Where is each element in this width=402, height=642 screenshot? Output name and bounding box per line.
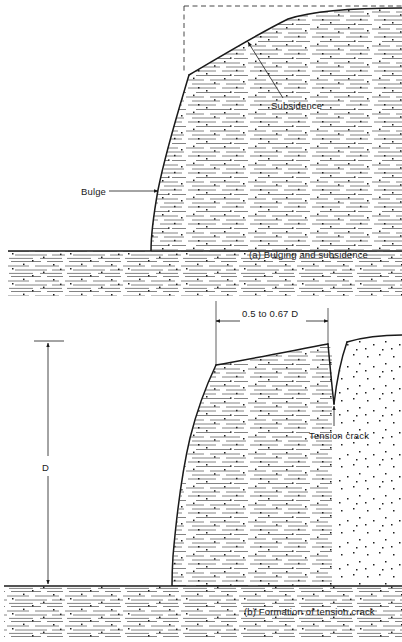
figure-root: Subsidence Bulge Tension crack 0.5 to 0.… (0, 0, 402, 642)
depth-dimension-label: D (42, 462, 49, 473)
tension-crack-label: Tension crack (309, 430, 369, 441)
wedge-width-dimension-label: 0.5 to 0.67 D (242, 308, 298, 319)
subsidence-label: Subsidence (271, 100, 322, 111)
diagram-canvas (0, 0, 402, 642)
soil-mass-slope-a (151, 8, 402, 250)
soil-mass-slope-fill-b (172, 344, 332, 586)
soil-mass-right-b (338, 336, 402, 586)
panel-b-caption: (b) Formation of tension crack (244, 606, 375, 617)
panel-a-caption: (a) Bulging and subsidence (249, 249, 368, 260)
panel-b (4, 301, 402, 638)
bulge-label: Bulge (81, 186, 106, 197)
